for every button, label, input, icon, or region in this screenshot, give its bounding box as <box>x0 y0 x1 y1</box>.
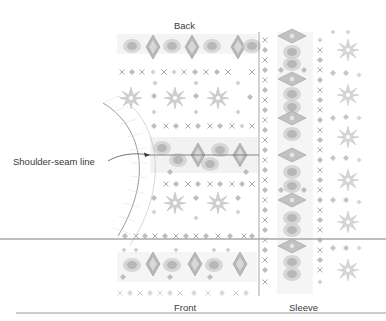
callout-arrow <box>108 153 150 162</box>
star-row <box>120 87 253 109</box>
sleeve-diamond-column <box>277 29 313 294</box>
shoulder-seam-callout-label: Shoulder-seam line <box>13 156 95 167</box>
armhole-curves <box>103 96 155 245</box>
sleeve-star-column <box>330 30 362 282</box>
sleeve-pattern <box>262 29 362 294</box>
sleeve-label: Sleeve <box>289 302 318 313</box>
x-dot-row <box>164 181 255 187</box>
x-dot-row <box>118 290 250 296</box>
x-dot-row <box>151 123 255 129</box>
shoulder-diamond-band <box>150 137 258 175</box>
front-label: Front <box>174 302 196 313</box>
dot-row <box>152 110 241 115</box>
front-diamond-band <box>117 248 257 283</box>
sleeve-x-dot-column <box>317 38 323 285</box>
x-dot-row <box>122 233 255 239</box>
x-dot-row <box>120 69 255 86</box>
back-label: Back <box>174 20 195 31</box>
star-row <box>151 192 241 221</box>
back-diamond-band <box>117 34 261 59</box>
sleeve-x-dot-column <box>262 38 268 285</box>
